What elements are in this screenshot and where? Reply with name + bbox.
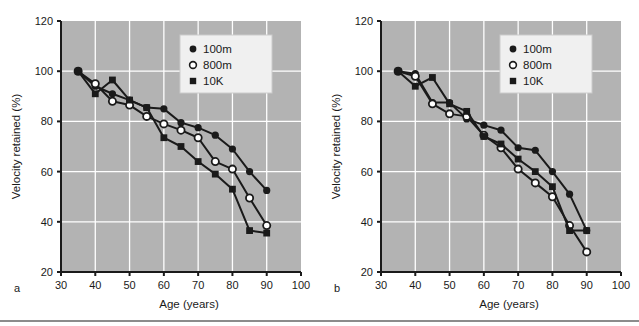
y-tick-label: 60 [41,166,53,178]
chart-panel-b: 2040608010012030405060708090100Age (year… [320,0,639,310]
data-point-filled-square [229,186,236,193]
data-point-filled-square [109,77,116,84]
data-point-filled-square [412,83,419,90]
legend-marker-filled-square [190,78,196,84]
x-tick-label: 70 [512,279,524,291]
data-point-filled-circle [480,122,487,129]
x-tick-label: 100 [292,279,310,291]
data-point-filled-circle [263,187,270,194]
data-point-filled-square [480,133,487,140]
data-point-filled-square [263,230,270,237]
data-point-filled-circle [160,105,167,112]
x-tick-label: 50 [123,279,135,291]
data-point-filled-square [212,171,219,178]
x-axis-title: Age (years) [159,298,219,310]
data-point-filled-square [463,108,470,115]
x-tick-label: 60 [478,279,490,291]
legend-marker-open-circle [510,62,517,69]
y-tick-label: 20 [361,266,373,278]
data-point-open-circle [177,127,184,134]
x-tick-labels: 30405060708090100 [375,279,630,291]
data-point-filled-square [395,68,402,75]
panel-letter: b [334,282,340,294]
data-point-filled-square [498,141,505,148]
data-point-filled-square [566,227,573,234]
chart-panel-a: 2040608010012030405060708090100Age (year… [0,0,319,310]
y-tick-label: 20 [41,266,53,278]
x-tick-label: 70 [192,279,204,291]
data-point-filled-square [446,100,453,107]
data-point-filled-circle [177,119,184,126]
x-tick-label: 30 [375,279,387,291]
legend-label: 10K [523,75,544,87]
data-point-open-circle [246,194,253,201]
y-tick-label: 80 [361,115,373,127]
y-tick-labels: 20406080100120 [355,15,373,278]
x-tick-labels: 30405060708090100 [55,279,310,291]
data-point-filled-square [143,104,150,111]
data-point-open-circle [583,248,590,255]
x-tick-label: 40 [409,279,421,291]
data-point-filled-square [583,227,590,234]
legend-marker-open-circle [190,62,197,69]
legend-marker-filled-circle [190,46,197,53]
data-point-filled-square [429,74,436,81]
legend-label: 800m [203,59,232,71]
data-point-filled-circle [497,127,504,134]
y-tick-label: 100 [35,65,53,77]
footer-rule [0,320,639,322]
legend-marker-filled-circle [510,46,517,53]
data-point-filled-square [195,158,202,165]
data-point-filled-circle [515,144,522,151]
legend-label: 100m [523,43,552,55]
data-point-filled-circle [566,191,573,198]
data-point-open-circle [532,179,539,186]
x-tick-label: 90 [261,279,273,291]
data-point-filled-square [178,143,185,150]
data-point-open-circle [195,134,202,141]
y-tick-labels: 20406080100120 [35,15,53,278]
legend-label: 800m [523,59,552,71]
x-tick-label: 80 [226,279,238,291]
data-point-filled-square [92,90,99,97]
data-point-open-circle [229,165,236,172]
data-point-open-circle [429,100,436,107]
data-point-filled-circle [229,145,236,152]
data-point-open-circle [263,222,270,229]
data-point-filled-square [532,168,539,175]
y-tick-label: 120 [35,15,53,27]
data-point-filled-circle [195,124,202,131]
x-axis-title: Age (years) [479,298,539,310]
legend: 100m800m10K [180,35,272,93]
x-tick-label: 50 [443,279,455,291]
panel-letter: a [14,282,20,294]
chart-svg: 2040608010012030405060708090100Age (year… [320,0,639,310]
legend-label: 10K [203,75,224,87]
data-point-open-circle [109,98,116,105]
x-tick-label: 80 [546,279,558,291]
data-point-filled-square [515,156,522,163]
y-tick-label: 40 [41,216,53,228]
data-point-filled-circle [109,90,116,97]
y-tick-label: 120 [355,15,373,27]
y-tick-label: 100 [355,65,373,77]
x-tick-label: 30 [55,279,67,291]
y-tick-label: 80 [41,115,53,127]
data-point-open-circle [92,80,99,87]
data-point-open-circle [515,165,522,172]
figure-container: 2040608010012030405060708090100Age (year… [0,0,639,326]
x-tick-label: 90 [581,279,593,291]
data-point-filled-square [246,227,253,234]
legend: 100m800m10K [500,35,592,93]
x-tick-label: 40 [89,279,101,291]
legend-label: 100m [203,43,232,55]
data-point-filled-circle [246,168,253,175]
data-point-open-circle [446,110,453,117]
y-tick-label: 40 [361,216,373,228]
data-point-open-circle [412,73,419,80]
data-point-filled-square [126,97,133,104]
data-point-filled-circle [212,132,219,139]
data-point-filled-square [75,68,82,75]
legend-marker-filled-square [510,78,516,84]
x-tick-label: 100 [612,279,630,291]
